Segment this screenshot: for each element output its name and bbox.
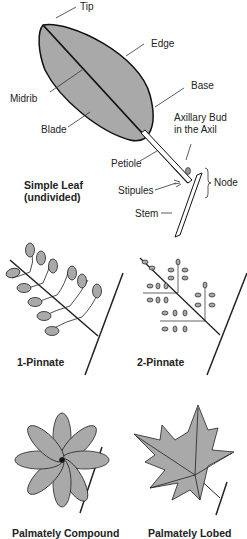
label-axillary-bud: Axillary Bud — [174, 112, 227, 123]
label-petiole: Petiole — [111, 158, 142, 169]
label-node: Node — [214, 177, 238, 188]
label-stem: Stem — [135, 208, 158, 219]
label-blade: Blade — [41, 124, 67, 135]
label-tip: Tip — [80, 1, 94, 12]
simple-leaf-subcaption: (undivided) — [24, 192, 81, 203]
two-pinnate-caption: 2-Pinnate — [137, 357, 184, 368]
label-midrib: Midrib — [10, 93, 37, 104]
palmately-compound-illustration — [15, 413, 109, 513]
simple-leaf-caption: Simple Leaf — [24, 180, 83, 191]
label-edge: Edge — [151, 38, 174, 49]
label-in-the-axil: in the Axil — [174, 124, 217, 135]
palmately-lobed-caption: Palmately Lobed — [148, 528, 231, 539]
label-stipules: Stipules — [118, 185, 154, 196]
one-pinnate-caption: 1-Pinnate — [17, 357, 64, 368]
label-base: Base — [191, 80, 214, 91]
palmately-lobed-illustration — [134, 405, 234, 515]
palmately-compound-caption: Palmately Compound — [12, 528, 119, 539]
